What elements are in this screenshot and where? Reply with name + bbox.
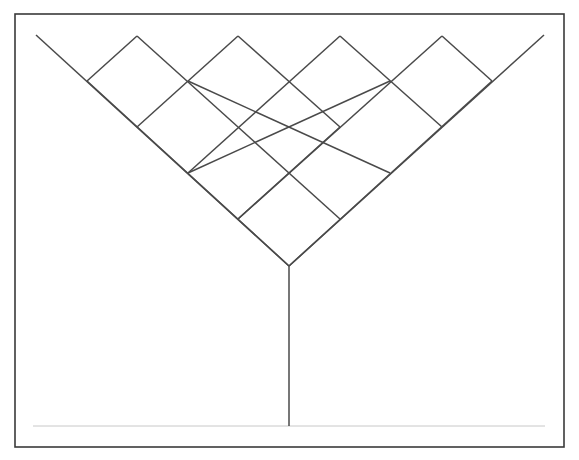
diamond-lattice (87, 36, 492, 266)
lattice-segment (188, 36, 340, 173)
lattice-diagram (0, 0, 579, 460)
lattice-segment (87, 36, 137, 81)
lattice-segment (442, 36, 492, 81)
